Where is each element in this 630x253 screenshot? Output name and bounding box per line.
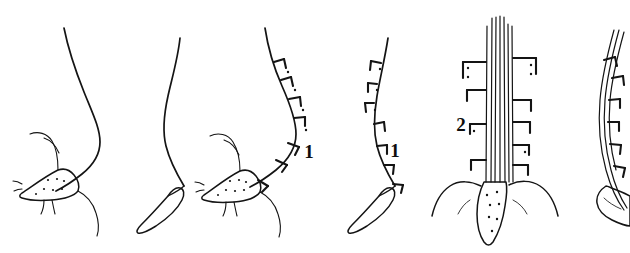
figure-1-stipple-dot	[56, 178, 58, 180]
figure-3-stipple-dot	[234, 190, 236, 192]
figure-plate: 1 1 2	[0, 0, 630, 253]
plate-background	[0, 0, 630, 253]
figure-5-stipple-dot	[488, 216, 490, 218]
figure-3-stipple-dot	[238, 179, 240, 181]
figure-5-stipple-dot	[496, 218, 498, 220]
figure-1-stipple-dot	[52, 189, 54, 191]
figure-1-stipple-dot	[61, 188, 63, 190]
figure-1-stipple-dot	[47, 179, 49, 181]
label-2: 2	[456, 114, 466, 135]
figure-1-stipple-dot	[35, 193, 37, 195]
label-1b: 1	[390, 140, 400, 161]
figure-3-stipple-dot	[243, 189, 245, 191]
figure-5-stipple-dot	[498, 203, 500, 205]
plate-canvas: 1 1 2	[0, 0, 630, 253]
figure-1-stipple-dot	[43, 188, 45, 190]
figure-3-stipple-dot	[245, 181, 247, 183]
label-1a: 1	[304, 141, 314, 162]
figure-5-stipple-dot	[486, 194, 488, 196]
figure-5-stipple-dot	[496, 191, 498, 193]
figure-5-stipple-dot	[491, 230, 493, 232]
figure-5-stipple-dot	[489, 204, 491, 206]
figure-3-stipple-dot	[217, 194, 219, 196]
figure-1-stipple-dot	[63, 180, 65, 182]
figure-3-stipple-dot	[229, 180, 231, 182]
figure-3-stipple-dot	[225, 189, 227, 191]
